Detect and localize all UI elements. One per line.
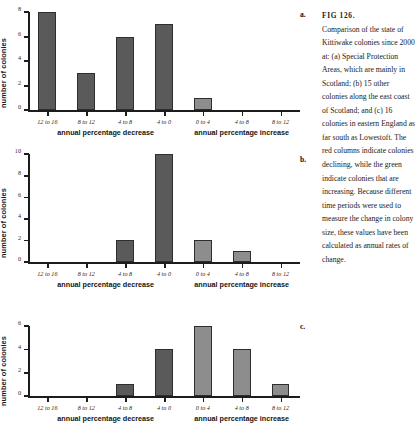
x-category-label: 0 to 4 — [196, 119, 210, 125]
x-tick — [242, 263, 244, 268]
x-category-label: 8 to 12 — [78, 119, 95, 125]
bar — [38, 12, 56, 110]
x-category-label: 4 to 0 — [157, 405, 171, 411]
x-tick — [47, 263, 49, 268]
x-tick — [125, 397, 127, 402]
y-tick: 4 — [24, 349, 29, 351]
bar — [155, 349, 173, 396]
x-tick — [164, 263, 166, 268]
x-tick — [86, 111, 88, 116]
chart-a-y-axis-title: number of colonies — [0, 38, 8, 108]
y-tick: 4 — [24, 60, 29, 62]
bar — [116, 37, 134, 111]
x-category-label: 0 to 4 — [196, 271, 210, 277]
y-tick-label: 10 — [15, 148, 21, 154]
y-tick: 0 — [24, 109, 29, 111]
x-axis-group-label: annual percentage increase — [194, 415, 289, 422]
chart-b-y-axis-title: number of colonies — [0, 188, 8, 258]
x-category-label: 8 to 12 — [272, 119, 289, 125]
bar — [155, 24, 173, 110]
x-axis-group-label: annual percentage decrease — [57, 415, 154, 422]
figure-caption-text: Comparison of the state of Kittiwake col… — [322, 23, 416, 267]
y-tick-label: 4 — [18, 213, 21, 219]
x-axis-group-label: annual percentage increase — [194, 129, 289, 136]
y-tick-label: 4 — [18, 55, 21, 61]
figure-charts-column: number of colonies 0246812 to 168 to 124… — [0, 0, 300, 424]
y-tick-label: 6 — [18, 192, 21, 198]
y-tick-label: 8 — [18, 6, 21, 12]
y-tick: 0 — [24, 261, 29, 263]
x-category-label: 4 to 8 — [235, 271, 249, 277]
x-tick — [47, 111, 49, 116]
x-tick — [86, 397, 88, 402]
y-tick-label: 8 — [18, 170, 21, 176]
y-tick: 6 — [24, 36, 29, 38]
x-category-label: 12 to 16 — [37, 271, 57, 277]
bar — [194, 326, 212, 396]
y-tick: 6 — [24, 325, 29, 327]
y-tick-label: 4 — [18, 344, 21, 350]
y-tick: 2 — [24, 372, 29, 374]
x-category-label: 4 to 0 — [157, 119, 171, 125]
x-category-label: 4 to 8 — [118, 119, 132, 125]
chart-panel-b: number of colonies 024681012 to 168 to 1… — [0, 146, 300, 296]
x-axis-group-label: annual percentage decrease — [57, 281, 154, 288]
x-tick — [203, 263, 205, 268]
x-category-label: 8 to 12 — [272, 271, 289, 277]
x-tick — [164, 397, 166, 402]
y-tick-label: 2 — [18, 235, 21, 241]
x-category-label: 12 to 16 — [37, 119, 57, 125]
panel-letter-a: a. — [300, 10, 316, 19]
y-tick-label: 2 — [18, 367, 21, 373]
y-tick: 6 — [24, 197, 29, 199]
chart-a-inner: number of colonies 0246812 to 168 to 124… — [0, 4, 300, 140]
x-category-label: 8 to 12 — [78, 405, 95, 411]
x-tick — [164, 111, 166, 116]
chart-c-y-axis-line — [28, 326, 30, 398]
panel-letter-b: b. — [300, 155, 316, 164]
x-category-label: 4 to 0 — [157, 271, 171, 277]
bar — [155, 154, 173, 262]
bar — [194, 240, 212, 262]
x-category-label: 4 to 8 — [235, 119, 249, 125]
chart-a-plot-area: 0246812 to 168 to 124 to 84 to 00 to 44 … — [28, 12, 300, 112]
x-tick — [281, 263, 283, 268]
y-tick: 8 — [24, 11, 29, 13]
x-category-label: 0 to 4 — [196, 405, 210, 411]
x-category-label: 4 to 8 — [118, 405, 132, 411]
chart-b-inner: number of colonies 024681012 to 168 to 1… — [0, 146, 300, 296]
x-tick — [47, 397, 49, 402]
figure-caption-column: a. b. c. FIG 126. Comparison of the stat… — [300, 0, 416, 424]
y-tick-label: 2 — [18, 80, 21, 86]
figure-caption: FIG 126. Comparison of the state of Kitt… — [322, 9, 416, 266]
y-tick-label: 6 — [18, 31, 21, 37]
x-category-label: 8 to 12 — [272, 405, 289, 411]
y-tick: 2 — [24, 240, 29, 242]
bar — [116, 240, 134, 262]
bar — [116, 384, 134, 396]
x-tick — [203, 111, 205, 116]
panel-letter-c: c. — [300, 322, 316, 331]
x-category-label: 12 to 16 — [37, 405, 57, 411]
x-tick — [86, 263, 88, 268]
bar — [194, 98, 212, 110]
y-tick: 10 — [24, 153, 29, 155]
x-tick — [125, 263, 127, 268]
chart-a-y-axis-line — [28, 12, 30, 112]
y-tick-label: 0 — [18, 390, 21, 396]
x-tick — [242, 397, 244, 402]
bar — [233, 349, 251, 396]
figure-number-label: FIG 126. — [322, 9, 416, 23]
bar — [233, 251, 251, 262]
bar — [272, 384, 290, 396]
chart-c-y-axis-title: number of colonies — [0, 336, 8, 406]
chart-c-plot-area: 024612 to 168 to 124 to 84 to 00 to 44 t… — [28, 326, 300, 398]
y-tick-label: 0 — [18, 256, 21, 262]
chart-b-y-axis-line — [28, 154, 30, 264]
chart-panel-a: number of colonies 0246812 to 168 to 124… — [0, 4, 300, 140]
y-tick: 4 — [24, 218, 29, 220]
y-tick: 2 — [24, 85, 29, 87]
x-tick — [281, 111, 283, 116]
x-category-label: 8 to 12 — [78, 271, 95, 277]
y-tick: 0 — [24, 395, 29, 397]
